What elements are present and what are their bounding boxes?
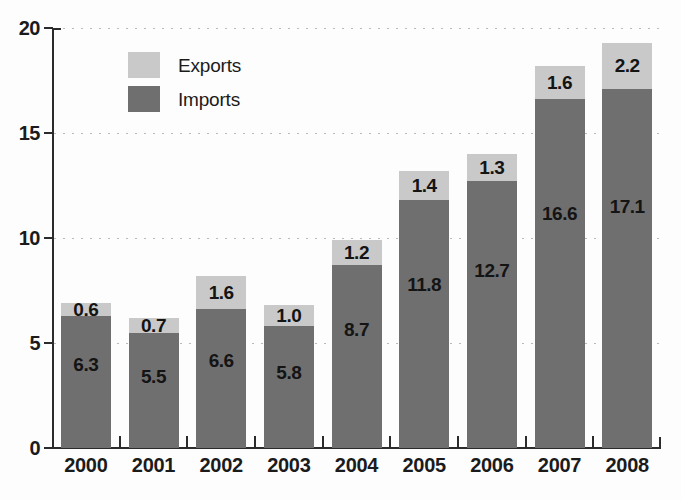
- bar-value-exports-2003: 1.0: [276, 306, 301, 325]
- bar-value-exports-2006: 1.3: [479, 158, 504, 177]
- legend-swatch-exports: [128, 52, 160, 78]
- x-axis-label-2004: 2004: [323, 455, 391, 475]
- legend-swatch-imports: [128, 86, 160, 112]
- bar-value-exports-2004: 1.2: [344, 243, 369, 262]
- bar-value-imports-2008: 17.1: [602, 197, 652, 216]
- legend-item-exports[interactable]: Exports: [128, 48, 241, 82]
- bar-group-2004[interactable]: 8.71.2: [332, 240, 382, 448]
- legend-item-imports[interactable]: Imports: [128, 82, 241, 116]
- x-axis-label-2006: 2006: [458, 455, 526, 475]
- bar-value-exports-2001: 0.7: [141, 316, 166, 335]
- bar-value-imports-2004: 8.7: [332, 320, 382, 339]
- bar-segment-exports-2003[interactable]: 1.0: [264, 305, 314, 326]
- y-axis-label-0: 0: [29, 438, 40, 458]
- bar-group-2008[interactable]: 17.12.2: [602, 43, 652, 448]
- bar-value-imports-2005: 11.8: [399, 275, 449, 294]
- bar-group-2001[interactable]: 5.50.7: [129, 318, 179, 448]
- legend: ExportsImports: [128, 48, 241, 116]
- bar-value-imports-2003: 5.8: [264, 363, 314, 382]
- bar-value-imports-2006: 12.7: [467, 261, 517, 280]
- bar-value-exports-2000: 0.6: [73, 300, 98, 319]
- bar-group-2007[interactable]: 16.61.6: [535, 66, 585, 448]
- bar-segment-imports-2002[interactable]: 6.6: [196, 309, 246, 448]
- bar-segment-imports-2004[interactable]: 8.7: [332, 265, 382, 448]
- bar-group-2003[interactable]: 5.81.0: [264, 305, 314, 448]
- bar-segment-imports-2001[interactable]: 5.5: [129, 333, 179, 449]
- bar-segment-exports-2007[interactable]: 1.6: [535, 66, 585, 100]
- x-axis-label-2000: 2000: [52, 455, 120, 475]
- bar-segment-imports-2006[interactable]: 12.7: [467, 181, 517, 448]
- bar-value-imports-2000: 6.3: [61, 355, 111, 374]
- bar-group-2000[interactable]: 6.30.6: [61, 303, 111, 448]
- x-axis-label-2003: 2003: [255, 455, 323, 475]
- bar-segment-imports-2007[interactable]: 16.6: [535, 99, 585, 448]
- legend-label-exports: Exports: [178, 56, 241, 75]
- x-axis-label-2005: 2005: [390, 455, 458, 475]
- bar-segment-exports-2006[interactable]: 1.3: [467, 154, 517, 181]
- bar-group-2006[interactable]: 12.71.3: [467, 154, 517, 448]
- legend-label-imports: Imports: [178, 90, 240, 109]
- bar-segment-exports-2008[interactable]: 2.2: [602, 43, 652, 89]
- bar-segment-imports-2005[interactable]: 11.8: [399, 200, 449, 448]
- bar-segment-exports-2001[interactable]: 0.7: [129, 318, 179, 333]
- bar-segment-imports-2003[interactable]: 5.8: [264, 326, 314, 448]
- x-axis-label-2001: 2001: [120, 455, 188, 475]
- bar-segment-imports-2008[interactable]: 17.1: [602, 89, 652, 448]
- y-axis-label-5: 5: [29, 333, 40, 353]
- bar-segment-exports-2004[interactable]: 1.2: [332, 240, 382, 265]
- y-axis-label-10: 10: [19, 228, 40, 248]
- y-axis-label-20: 20: [19, 18, 40, 38]
- bar-value-exports-2008: 2.2: [615, 56, 640, 75]
- bar-group-2005[interactable]: 11.81.4: [399, 171, 449, 448]
- x-axis-label-2008: 2008: [593, 455, 661, 475]
- stacked-bar-chart: 05101520 6.30.65.50.76.61.65.81.08.71.21…: [0, 0, 681, 500]
- y-axis-label-15: 15: [19, 123, 40, 143]
- bar-value-imports-2001: 5.5: [129, 367, 179, 386]
- bar-group-2002[interactable]: 6.61.6: [196, 276, 246, 448]
- x-axis-label-2002: 2002: [187, 455, 255, 475]
- bar-value-exports-2005: 1.4: [412, 176, 437, 195]
- bar-segment-exports-2000[interactable]: 0.6: [61, 303, 111, 316]
- x-axis-label-2007: 2007: [526, 455, 594, 475]
- bar-value-imports-2002: 6.6: [196, 351, 246, 370]
- bar-value-exports-2002: 1.6: [209, 283, 234, 302]
- bar-value-exports-2007: 1.6: [547, 73, 572, 92]
- bar-value-imports-2007: 16.6: [535, 204, 585, 223]
- bar-segment-exports-2002[interactable]: 1.6: [196, 276, 246, 310]
- bar-segment-exports-2005[interactable]: 1.4: [399, 171, 449, 200]
- bar-segment-imports-2000[interactable]: 6.3: [61, 316, 111, 448]
